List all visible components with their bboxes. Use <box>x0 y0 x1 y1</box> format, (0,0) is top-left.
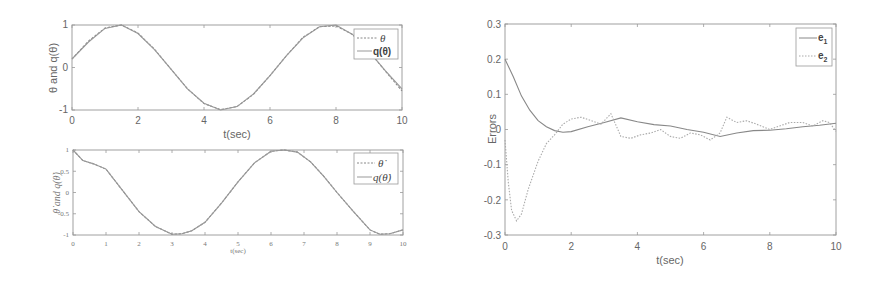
x-tick-label: 8 <box>335 240 339 248</box>
legend-bottom-left: θ̇ q(θ̇) <box>354 153 398 184</box>
y-tick-label: -0.1 <box>484 159 502 170</box>
axes-frame-right <box>505 24 836 235</box>
chart-top-left: 024681010-1 t(sec) θ and q(θ) θ q(θ) <box>47 19 408 140</box>
y-axis-label-right: Errors <box>486 114 498 144</box>
x-tick-label: 6 <box>701 241 707 252</box>
y-tick-label: 0.2 <box>487 54 501 65</box>
y-tick-label: -1 <box>59 104 68 115</box>
y-tick-label: 0 <box>66 189 70 197</box>
legend-label-theta: θ <box>380 32 386 44</box>
x-tick-label: 4 <box>203 240 207 248</box>
y-axis-label-bottom-left: θ̇ and q(θ̇) <box>51 172 63 214</box>
y-tick-label: 0 <box>62 62 68 73</box>
x-tick-label: 10 <box>400 240 408 248</box>
x-tick-label: 0 <box>69 115 75 126</box>
x-tick-label: 4 <box>635 241 641 252</box>
x-tick-label: 2 <box>137 240 141 248</box>
x-axis-label-top-left: t(sec) <box>223 128 251 140</box>
x-tick-label: 2 <box>568 241 574 252</box>
axes-frame-bottom-left <box>73 150 403 235</box>
x-tick-label: 1 <box>104 240 108 248</box>
chart-right-errors: 02468100.30.20.10-0.1-0.2-0.3 t(sec) Err… <box>484 19 842 266</box>
y-tick-label: -0.3 <box>484 230 502 241</box>
y-tick-label: 1 <box>62 19 68 30</box>
x-tick-label: 8 <box>333 115 339 126</box>
x-tick-label: 10 <box>396 115 408 126</box>
axes-frame-top-left <box>72 25 402 110</box>
figure-canvas: 024681010-1 t(sec) θ and q(θ) θ q(θ) 012… <box>0 0 881 286</box>
x-tick-label: 0 <box>71 240 75 248</box>
x-tick-label: 2 <box>135 115 141 126</box>
y-tick-label: 0.1 <box>487 89 501 100</box>
y-tick-label: 1 <box>66 146 70 154</box>
x-tick-label: 6 <box>267 115 273 126</box>
y-axis-label-top-left: θ and q(θ) <box>47 43 59 93</box>
x-tick-label: 7 <box>302 240 306 248</box>
y-tick-label: -1 <box>63 231 69 239</box>
x-tick-label: 4 <box>201 115 207 126</box>
legend-label-q-theta-dot: q(θ̇) <box>373 171 392 184</box>
legend-label-q-theta: q(θ) <box>373 46 391 57</box>
x-tick-label: 10 <box>830 241 842 252</box>
chart-bottom-left: 01234567891010.50-0.5-1 t(sec) θ̇ and q(… <box>51 146 407 255</box>
x-tick-label: 9 <box>368 240 372 248</box>
x-tick-label: 0 <box>502 241 508 252</box>
x-tick-label: 3 <box>170 240 174 248</box>
x-axis-label-right: t(sec) <box>656 254 684 266</box>
x-axis-label-bottom-left: t(sec) <box>230 247 246 255</box>
legend-right: e1 e2 <box>796 28 832 66</box>
x-tick-label: 8 <box>767 241 773 252</box>
x-tick-label: 6 <box>269 240 273 248</box>
legend-top-left: θ q(θ) <box>354 29 398 59</box>
y-tick-label: -0.2 <box>484 195 502 206</box>
y-tick-label: 0.3 <box>487 19 501 30</box>
